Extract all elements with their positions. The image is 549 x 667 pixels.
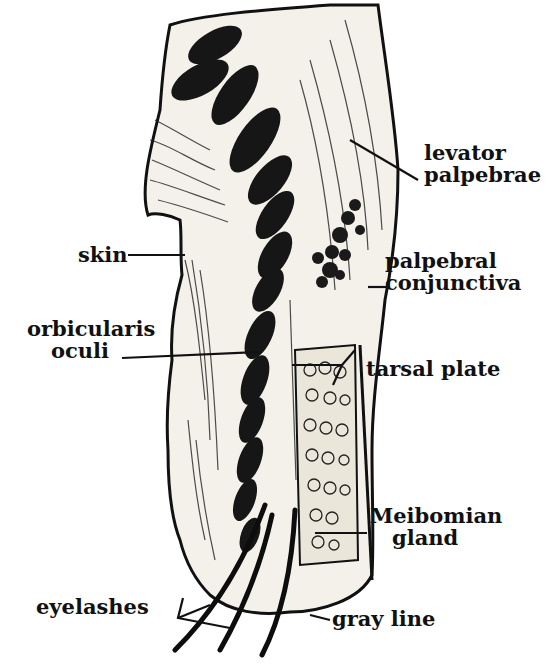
- label-tarsal-plate: tarsal plate: [366, 358, 500, 380]
- label-skin: skin: [78, 244, 128, 266]
- label-line: Meibomian: [370, 505, 502, 527]
- label-line: oculi: [27, 340, 155, 362]
- label-levator-palpebrae: levator palpebrae: [424, 142, 541, 186]
- label-line: skin: [78, 244, 128, 266]
- label-orbicularis-oculi: orbicularis oculi: [27, 318, 155, 362]
- label-line: conjunctiva: [385, 272, 521, 294]
- label-gray-line: gray line: [332, 608, 435, 630]
- eyelid-tissue: [145, 5, 398, 655]
- label-line: gland: [370, 527, 502, 549]
- label-line: palpebral: [385, 250, 521, 272]
- label-line: eyelashes: [36, 596, 149, 618]
- label-line: palpebrae: [424, 164, 541, 186]
- label-line: orbicularis: [27, 318, 155, 340]
- label-meibomian-gland: Meibomian gland: [370, 505, 502, 549]
- label-line: gray line: [332, 608, 435, 630]
- label-palpebral-conjunctiva: palpebral conjunctiva: [385, 250, 521, 294]
- label-eyelashes: eyelashes: [36, 596, 149, 618]
- label-line: tarsal plate: [366, 358, 500, 380]
- label-line: levator: [424, 142, 541, 164]
